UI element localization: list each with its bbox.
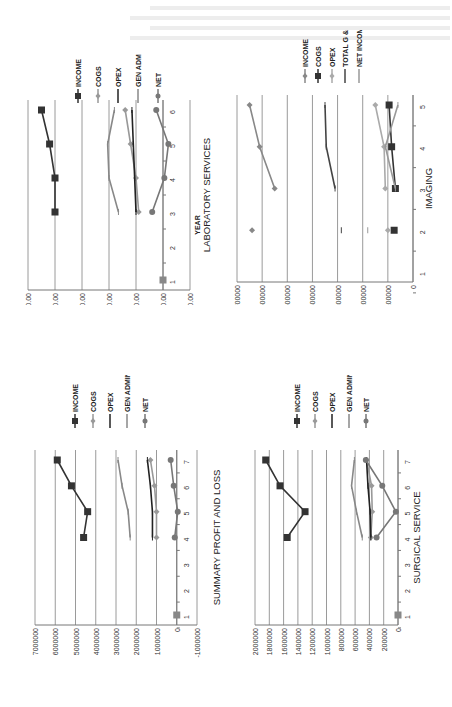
svg-text:5: 5 [183, 512, 190, 516]
x-axis-label: YEAR [194, 215, 201, 234]
y-tick-label: -$100,000.00 [187, 293, 194, 305]
chart-summary-profit-and-loss: 7000000600000050000004000000300000020000… [15, 375, 230, 695]
y-tick-label: 600000 [352, 628, 359, 651]
y-tick-label: 1600000 [281, 628, 288, 655]
y-tick-label: 1800000 [266, 628, 273, 655]
legend-item: INCOME [302, 39, 309, 83]
legend-item: COGS [95, 66, 102, 103]
y-tick-label: -1000000 [194, 628, 201, 658]
legend-item: INCOME [294, 384, 301, 428]
y-tick-label: 0 [174, 628, 181, 632]
svg-text:OPEX: OPEX [107, 392, 114, 412]
legend-item: NET [363, 397, 370, 428]
y-tick-label: $200,000.00 [106, 293, 113, 305]
svg-text:5: 5 [419, 105, 426, 109]
y-tick-label: $0.00 [160, 293, 167, 305]
legend-item: COGS [315, 46, 322, 83]
svg-text:1: 1 [404, 615, 411, 619]
y-tick-label: 7000000 [32, 628, 39, 655]
svg-text:6: 6 [183, 486, 190, 490]
legend-item: COGS [90, 391, 97, 428]
chart-title: IMAGING [423, 168, 434, 209]
svg-text:TOTAL G & A: TOTAL G & A [342, 30, 349, 67]
svg-text:4: 4 [419, 147, 426, 151]
chart-laboratory-services: $500,000.00$400,000.00$300,000.00$200,00… [10, 45, 225, 305]
y-tick-label: 200000 [360, 285, 367, 305]
svg-text:INCOME: INCOME [294, 384, 301, 412]
chart-svg: $500,000.00$400,000.00$300,000.00$200,00… [10, 45, 225, 305]
legend-item: TOTAL G & A [342, 30, 349, 83]
svg-text:OPEX: OPEX [329, 392, 336, 412]
chart-surgical-service: 2000000180000016000001400000120000010000… [235, 375, 450, 695]
chart-title: LABORATORY SERVICES [201, 138, 212, 252]
svg-text:5: 5 [404, 512, 411, 516]
y-tick-label: 800000 [338, 628, 345, 651]
chart-imaging: 7000006000005000004000003000002000001000… [225, 30, 450, 305]
y-tick-label: 2000000 [133, 628, 140, 655]
y-tick-label: $500,000.00 [25, 293, 32, 305]
svg-text:2: 2 [419, 230, 426, 234]
svg-text:GEN ADM: GEN ADM [135, 54, 142, 87]
svg-text:4: 4 [169, 178, 176, 182]
svg-text:GEN ADMIN: GEN ADMIN [346, 375, 353, 412]
legend-item: NET [155, 72, 162, 103]
svg-text:3: 3 [169, 212, 176, 216]
chart-svg: 7000006000005000004000003000002000001000… [225, 30, 450, 305]
y-tick-label: 300000 [335, 285, 342, 305]
svg-text:6: 6 [169, 110, 176, 114]
y-tick-label: 400000 [366, 628, 373, 651]
y-tick-label: 5000000 [73, 628, 80, 655]
svg-text:NET: NET [142, 397, 149, 412]
svg-text:OPEX: OPEX [115, 67, 122, 87]
y-tick-label: 1000000 [324, 628, 331, 655]
y-tick-label: 100000 [385, 285, 392, 305]
legend-item: NET INCOME [356, 30, 363, 83]
svg-text:1: 1 [169, 280, 176, 284]
legend-item: OPEX [107, 392, 114, 428]
y-tick-label: 0 [395, 628, 402, 632]
y-tick-label: $100,000.00 [133, 293, 140, 305]
chart-title: SUMMARY PROFIT AND LOSS [211, 470, 222, 606]
legend-item: OPEX [115, 67, 122, 103]
y-tick-label: 400000 [309, 285, 316, 305]
svg-text:6: 6 [404, 486, 411, 490]
svg-text:4: 4 [404, 537, 411, 541]
svg-text:GEN ADMIN: GEN ADMIN [124, 375, 131, 412]
legend-item: GEN ADM [135, 54, 142, 103]
svg-text:2: 2 [169, 246, 176, 250]
svg-text:1: 1 [419, 272, 426, 276]
y-tick-label: $400,000.00 [52, 293, 59, 305]
svg-text:NET: NET [363, 397, 370, 412]
svg-text:OPEX: OPEX [329, 47, 336, 67]
svg-text:4: 4 [183, 537, 190, 541]
svg-text:2: 2 [404, 589, 411, 593]
chart-svg: 2000000180000016000001400000120000010000… [235, 375, 450, 695]
svg-text:INCOME: INCOME [75, 59, 82, 87]
svg-text:COGS: COGS [95, 66, 102, 87]
y-tick-label: 700000 [234, 285, 241, 305]
y-tick-label: 1400000 [295, 628, 302, 655]
y-tick-label: 1000000 [154, 628, 161, 655]
y-tick-label: 4000000 [93, 628, 100, 655]
svg-text:COGS: COGS [315, 46, 322, 67]
svg-text:INCOME: INCOME [302, 39, 309, 67]
y-tick-label: 1200000 [309, 628, 316, 655]
svg-text:3: 3 [183, 563, 190, 567]
y-tick-label: 6000000 [52, 628, 59, 655]
svg-text:COGS: COGS [90, 391, 97, 412]
svg-text:NET INCOME: NET INCOME [356, 30, 363, 67]
svg-text:1: 1 [183, 615, 190, 619]
y-tick-label: 600000 [259, 285, 266, 305]
svg-text:2: 2 [183, 589, 190, 593]
svg-text:COGS: COGS [312, 391, 319, 412]
svg-text:7: 7 [183, 460, 190, 464]
legend-item: INCOME [75, 59, 82, 103]
svg-text:INCOME: INCOME [72, 384, 79, 412]
y-tick-label: 0 [410, 285, 417, 289]
chart-svg: 7000000600000050000004000000300000020000… [15, 375, 230, 695]
svg-text:NET: NET [155, 72, 162, 87]
svg-text:7: 7 [404, 460, 411, 464]
svg-text:3: 3 [404, 563, 411, 567]
chart-title: SURGICAL SERVICE [411, 491, 422, 583]
legend-item: COGS [312, 391, 319, 428]
